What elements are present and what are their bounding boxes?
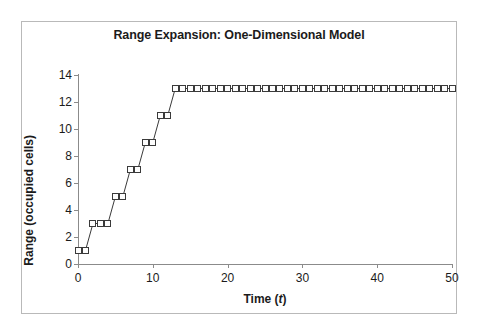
- y-axis-tick-label: 4: [42, 204, 72, 216]
- data-point-marker: [164, 112, 171, 119]
- data-point-marker: [254, 85, 261, 92]
- x-axis-tick: [153, 264, 154, 268]
- data-point-marker: [187, 85, 194, 92]
- x-axis-tick-label: 50: [432, 272, 472, 284]
- y-axis-tick-label: 2: [42, 231, 72, 243]
- x-axis-tick-label: 40: [357, 272, 397, 284]
- y-axis-tick-label: 14: [42, 69, 72, 81]
- figure: Range Expansion: One-Dimensional Model R…: [0, 0, 478, 333]
- data-point-marker: [217, 85, 224, 92]
- data-point-marker: [149, 139, 156, 146]
- plot-area: [78, 75, 452, 264]
- data-point-marker: [112, 193, 119, 200]
- data-point-marker: [247, 85, 254, 92]
- y-axis-tick-label: 10: [42, 123, 72, 135]
- data-point-marker: [232, 85, 239, 92]
- y-axis-tick-label: 8: [42, 150, 72, 162]
- x-axis-tick-label: 20: [208, 272, 248, 284]
- y-axis-tick: [74, 183, 78, 184]
- x-axis-tick: [228, 264, 229, 268]
- data-point-marker: [381, 85, 388, 92]
- data-point-marker: [411, 85, 418, 92]
- data-point-marker: [306, 85, 313, 92]
- data-point-marker: [276, 85, 283, 92]
- x-axis-line: [78, 264, 453, 265]
- data-point-marker: [336, 85, 343, 92]
- data-point-marker: [366, 85, 373, 92]
- x-axis-title-text: Time (: [243, 292, 278, 306]
- data-point-marker: [97, 220, 104, 227]
- y-axis-tick: [74, 75, 78, 76]
- data-point-marker: [329, 85, 336, 92]
- data-point-marker: [179, 85, 186, 92]
- y-axis-tick: [74, 129, 78, 130]
- data-point-marker: [202, 85, 209, 92]
- y-axis-tick-label: 6: [42, 177, 72, 189]
- x-axis-tick: [302, 264, 303, 268]
- data-point-marker: [224, 85, 231, 92]
- data-point-marker: [359, 85, 366, 92]
- data-point-marker: [82, 247, 89, 254]
- data-point-marker: [434, 85, 441, 92]
- data-point-marker: [104, 220, 111, 227]
- y-axis-tick: [74, 210, 78, 211]
- x-axis-tick-label: 30: [282, 272, 322, 284]
- x-axis-title: Time (t): [78, 292, 452, 306]
- data-point-marker: [284, 85, 291, 92]
- data-point-marker: [396, 85, 403, 92]
- x-axis-title-close: ): [283, 292, 287, 306]
- data-point-marker: [194, 85, 201, 92]
- data-point-marker: [89, 220, 96, 227]
- x-axis-tick-label: 10: [133, 272, 173, 284]
- y-axis-tick-label: 12: [42, 96, 72, 108]
- data-point-marker: [404, 85, 411, 92]
- data-point-marker: [374, 85, 381, 92]
- data-point-marker: [269, 85, 276, 92]
- data-point-marker: [209, 85, 216, 92]
- data-point-marker: [389, 85, 396, 92]
- data-point-marker: [426, 85, 433, 92]
- data-point-marker: [321, 85, 328, 92]
- data-point-marker: [119, 193, 126, 200]
- data-point-marker: [291, 85, 298, 92]
- data-point-marker: [344, 85, 351, 92]
- data-point-marker: [299, 85, 306, 92]
- chart-title: Range Expansion: One-Dimensional Model: [0, 28, 478, 42]
- data-point-marker: [157, 112, 164, 119]
- data-point-marker: [75, 247, 82, 254]
- data-point-marker: [441, 85, 448, 92]
- data-point-marker: [172, 85, 179, 92]
- data-point-marker: [262, 85, 269, 92]
- data-point-marker: [351, 85, 358, 92]
- data-point-marker: [239, 85, 246, 92]
- x-axis-tick-label: 0: [58, 272, 98, 284]
- y-axis-tick-label: 0: [42, 258, 72, 270]
- y-axis-title: Range (occupied cells): [22, 135, 36, 266]
- data-point-marker: [142, 139, 149, 146]
- data-point-marker: [419, 85, 426, 92]
- data-point-marker: [314, 85, 321, 92]
- y-axis-tick: [74, 237, 78, 238]
- x-axis-tick: [452, 264, 453, 268]
- y-axis-tick: [74, 102, 78, 103]
- x-axis-tick: [377, 264, 378, 268]
- y-axis-tick: [74, 156, 78, 157]
- data-point-marker: [127, 166, 134, 173]
- data-point-marker: [134, 166, 141, 173]
- x-axis-tick: [78, 264, 79, 268]
- data-point-marker: [449, 85, 456, 92]
